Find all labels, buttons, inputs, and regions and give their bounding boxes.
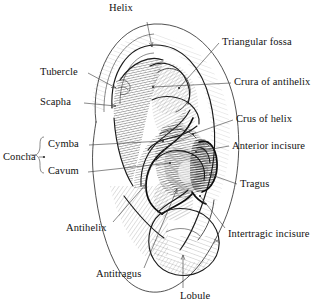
leader-tip-cavum xyxy=(169,162,171,164)
leader-tip-anterior-incisure xyxy=(195,151,197,153)
label-tragus: Tragus xyxy=(240,178,269,189)
leader-tip-triangular-fossa xyxy=(178,87,180,89)
leader-tip-crura-of-antihelix xyxy=(152,86,154,88)
leader-tip-intertragic-incisure xyxy=(199,195,201,197)
label-lobule: Lobule xyxy=(180,290,210,301)
label-anterior-incisure: Anterior incisure xyxy=(232,140,305,151)
label-scapha: Scapha xyxy=(40,96,71,107)
label-tubercle: Tubercle xyxy=(40,66,78,77)
leader-tip-concha xyxy=(43,156,45,158)
label-antitragus: Antitragus xyxy=(96,268,141,279)
label-antihelix: Antihelix xyxy=(66,222,107,233)
label-cavum: Cavum xyxy=(48,165,79,176)
label-intertragic-incisure: Intertragic incisure xyxy=(228,228,310,239)
leader-tip-crus-of-helix xyxy=(192,133,194,135)
label-cymba: Cymba xyxy=(48,138,79,149)
label-concha: Concha xyxy=(3,151,36,162)
leader-tip-cymba xyxy=(162,140,164,142)
label-crus-of-helix: Crus of helix xyxy=(236,113,292,124)
ear-anatomy-figure: HelixTubercleScaphaCymbaCavumConchaAntih… xyxy=(0,0,322,305)
label-triangular-fossa: Triangular fossa xyxy=(222,36,292,47)
label-crura-of-antihelix: Crura of antihelix xyxy=(234,76,310,87)
label-helix: Helix xyxy=(109,2,133,13)
